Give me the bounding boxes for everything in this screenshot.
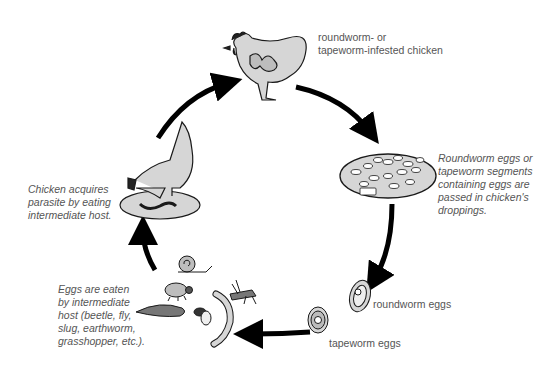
chicken-eating-label: Chicken acquires parasite by eating inte… [28, 183, 138, 222]
fly-icon [194, 308, 211, 325]
infested-chicken-label: roundworm- or tapeworm-infested chicken [318, 31, 498, 57]
infested-chicken-illustration [224, 32, 306, 100]
tapeworm-eggs-label: tapeworm eggs [329, 337, 401, 350]
arrow-droppings-to-eggs [374, 204, 392, 280]
intermediate-host-label: Eggs are eaten by intermediate host (bee… [58, 283, 178, 348]
droppings-label: Roundworm eggs or tapeworm segments cont… [438, 152, 546, 217]
earthworm-icon [214, 294, 230, 344]
roundworm-egg-illustration [346, 278, 374, 314]
tapeworm-egg-illustration [308, 307, 328, 333]
arrow-host-to-chicken [143, 230, 155, 270]
arrow-eggs-to-host [248, 332, 310, 334]
snail-icon [178, 256, 212, 272]
arrow-infested-to-droppings [296, 87, 370, 132]
roundworm-eggs-label: roundworm eggs [373, 298, 451, 311]
grasshopper-icon [230, 280, 256, 304]
droppings-illustration [340, 154, 436, 198]
arrow-chicken-to-infested [158, 83, 228, 138]
